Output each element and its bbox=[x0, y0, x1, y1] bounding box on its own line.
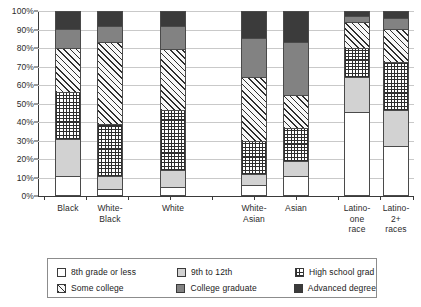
legend-swatch-icon bbox=[295, 268, 304, 277]
y-axis-tick-label: 40% bbox=[0, 117, 34, 127]
bar-segment bbox=[384, 12, 408, 19]
y-axis-tick-label: 90% bbox=[0, 25, 34, 35]
bar-segment bbox=[345, 113, 369, 195]
legend-label: Advanced degree bbox=[308, 283, 376, 293]
x-axis-label: White bbox=[149, 203, 197, 214]
x-axis-label: Black bbox=[44, 203, 92, 214]
legend-label: High school grad bbox=[309, 267, 374, 277]
x-axis-line bbox=[38, 196, 414, 197]
bar-black bbox=[55, 11, 81, 196]
x-axis-label: Asian bbox=[272, 203, 320, 214]
stacked-bar-chart: 0%10%20%30%40%50%60%70%80%90%100% BlackW… bbox=[0, 0, 421, 307]
bar-segment bbox=[242, 39, 266, 77]
x-axis-tick-mark bbox=[170, 196, 171, 200]
bar-segment bbox=[56, 177, 80, 195]
x-axis-tick-mark bbox=[44, 196, 45, 200]
y-axis-tick-label: 30% bbox=[0, 136, 34, 146]
bar-white-asian bbox=[241, 11, 267, 196]
bar-segment bbox=[98, 12, 122, 27]
legend-swatch-icon bbox=[57, 268, 66, 277]
legend-label: 8th grade or less bbox=[71, 267, 136, 277]
legend-item: Some college bbox=[57, 283, 176, 293]
bar-segment bbox=[284, 43, 308, 96]
bar-segment bbox=[98, 190, 122, 195]
legend-swatch-icon bbox=[57, 284, 66, 293]
x-axis-tick-mark bbox=[413, 196, 414, 200]
bar-segment bbox=[384, 147, 408, 195]
legend-item: 8th grade or less bbox=[57, 267, 177, 277]
legend-label: 9th to 12th bbox=[191, 267, 232, 277]
bar-segment bbox=[384, 30, 408, 63]
bar-segment bbox=[284, 177, 308, 195]
y-axis-tick-label: 100% bbox=[0, 6, 34, 16]
bar-latino-2-races bbox=[383, 11, 409, 196]
y-axis-tick-label: 50% bbox=[0, 99, 34, 109]
x-axis-tick-mark bbox=[128, 196, 129, 200]
x-axis-label-line: 2+ bbox=[372, 214, 420, 225]
bar-segment bbox=[161, 27, 185, 51]
bar-segment bbox=[56, 93, 80, 141]
bar-segment bbox=[56, 140, 80, 177]
bar-segment bbox=[345, 78, 369, 113]
y-axis-tick-label: 20% bbox=[0, 154, 34, 164]
x-axis-label: White-Asian bbox=[230, 203, 278, 224]
bar-segment bbox=[384, 19, 408, 30]
legend-row: Some collegeCollege graduateAdvanced deg… bbox=[57, 280, 376, 296]
bar-segment bbox=[242, 142, 266, 175]
legend-label: College graduate bbox=[190, 283, 256, 293]
x-axis-label-line: Black bbox=[44, 203, 92, 214]
x-axis-tick-mark bbox=[86, 196, 87, 200]
x-axis-label-line: Black bbox=[86, 214, 134, 225]
legend-item: 9th to 12th bbox=[177, 267, 295, 277]
bar-white bbox=[160, 11, 186, 196]
legend-label: Some college bbox=[71, 283, 124, 293]
bar-segment bbox=[384, 111, 408, 148]
x-axis-tick-mark bbox=[338, 196, 339, 200]
bar-segment bbox=[98, 27, 122, 43]
x-axis-label-line: White- bbox=[86, 203, 134, 214]
x-axis-label-line: Asian bbox=[230, 214, 278, 225]
legend-item: High school grad bbox=[295, 267, 374, 277]
bar-segment bbox=[284, 129, 308, 162]
bar-segment bbox=[284, 12, 308, 43]
x-axis-label-line: Asian bbox=[272, 203, 320, 214]
bar-segment bbox=[56, 49, 80, 93]
bar-segment bbox=[56, 30, 80, 48]
bar-segment bbox=[98, 43, 122, 125]
bar-segment bbox=[56, 12, 80, 30]
bar-segment bbox=[161, 188, 185, 195]
x-axis-label: Latino-2+races bbox=[372, 203, 420, 235]
x-axis-label: White-Black bbox=[86, 203, 134, 224]
chart-legend: 8th grade or less9th to 12thHigh school … bbox=[47, 258, 377, 298]
legend-item: Advanced degree bbox=[294, 283, 376, 293]
bar-segment bbox=[384, 63, 408, 111]
legend-swatch-icon bbox=[177, 268, 186, 277]
bar-asian bbox=[283, 11, 309, 196]
bar-segment bbox=[161, 12, 185, 27]
y-axis-tick-label: 0% bbox=[0, 191, 34, 201]
bar-segment bbox=[98, 125, 122, 176]
y-axis-tick-label: 10% bbox=[0, 173, 34, 183]
bar-segment bbox=[161, 171, 185, 187]
bar-segment bbox=[242, 175, 266, 186]
x-axis-label-line: Latino- bbox=[372, 203, 420, 214]
y-axis-tick-label: 80% bbox=[0, 43, 34, 53]
x-axis-label-line: White- bbox=[230, 203, 278, 214]
bar-white-black bbox=[97, 11, 123, 196]
bar-latino-one-race bbox=[344, 11, 370, 196]
legend-item: College graduate bbox=[176, 283, 293, 293]
x-axis-tick-mark bbox=[254, 196, 255, 200]
bar-segment bbox=[284, 96, 308, 129]
bar-segment bbox=[98, 177, 122, 190]
legend-row: 8th grade or less9th to 12thHigh school … bbox=[57, 264, 376, 280]
bar-segment bbox=[242, 186, 266, 195]
plot-area bbox=[38, 11, 413, 196]
x-axis-tick-mark bbox=[296, 196, 297, 200]
x-axis-tick-mark bbox=[380, 196, 381, 200]
bar-segment bbox=[161, 111, 185, 171]
x-axis-tick-mark bbox=[212, 196, 213, 200]
x-axis-label-line: White bbox=[149, 203, 197, 214]
legend-swatch-icon bbox=[176, 284, 185, 293]
bar-segment bbox=[242, 78, 266, 142]
bar-segment bbox=[345, 23, 369, 49]
